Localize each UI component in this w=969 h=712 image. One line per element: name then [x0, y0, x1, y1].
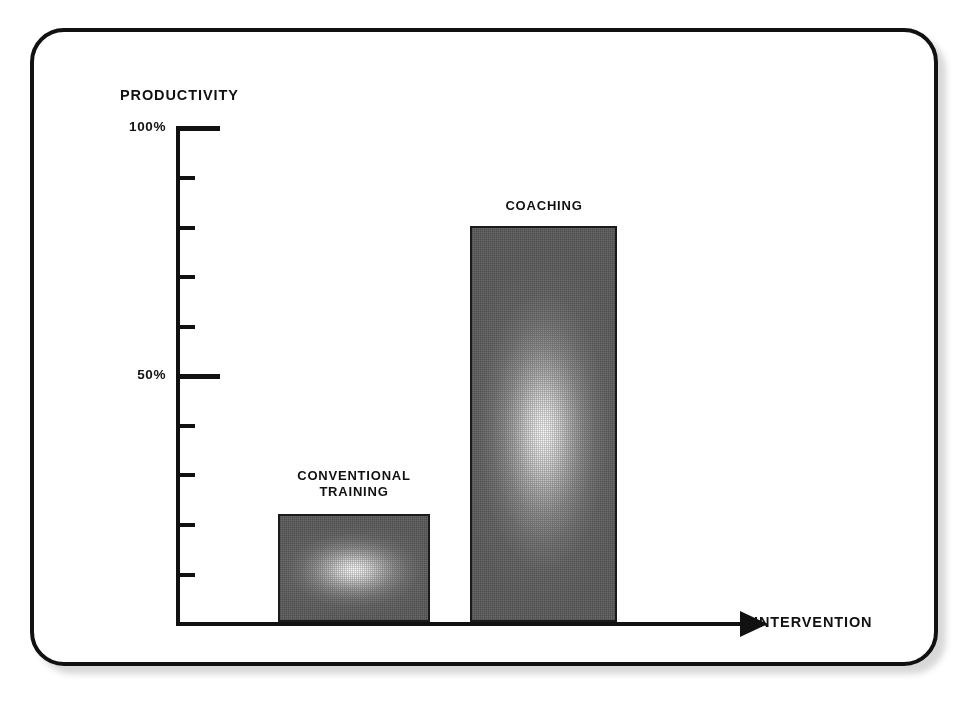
- y-tick-major-50: [176, 374, 220, 379]
- y-tick-minor-10: [176, 573, 195, 577]
- y-tick-major-100: [176, 126, 220, 131]
- bar-label-coaching: COACHING: [458, 198, 630, 214]
- y-tick-minor-20: [176, 523, 195, 527]
- bar-conventional-training[interactable]: [278, 514, 430, 622]
- chart-plot-area: PRODUCTIVITY INTERVENTION 100% 50% CONVE…: [34, 32, 938, 666]
- bar-label-conventional-training: CONVENTIONAL TRAINING: [268, 468, 440, 501]
- y-tick-minor-90: [176, 176, 195, 180]
- y-tick-minor-80: [176, 226, 195, 230]
- chart-panel: PRODUCTIVITY INTERVENTION 100% 50% CONVE…: [30, 28, 938, 666]
- x-axis-line: [176, 622, 744, 626]
- y-tick-label-50: 50%: [106, 367, 166, 382]
- y-tick-minor-40: [176, 424, 195, 428]
- bar-coaching[interactable]: [470, 226, 617, 622]
- x-axis-title: INTERVENTION: [754, 614, 873, 630]
- y-tick-minor-70: [176, 275, 195, 279]
- y-tick-minor-30: [176, 473, 195, 477]
- y-tick-label-100: 100%: [106, 119, 166, 134]
- y-tick-minor-60: [176, 325, 195, 329]
- bar-halftone-texture: [280, 516, 428, 620]
- bar-halftone-texture: [472, 228, 615, 620]
- y-axis-title: PRODUCTIVITY: [120, 87, 239, 103]
